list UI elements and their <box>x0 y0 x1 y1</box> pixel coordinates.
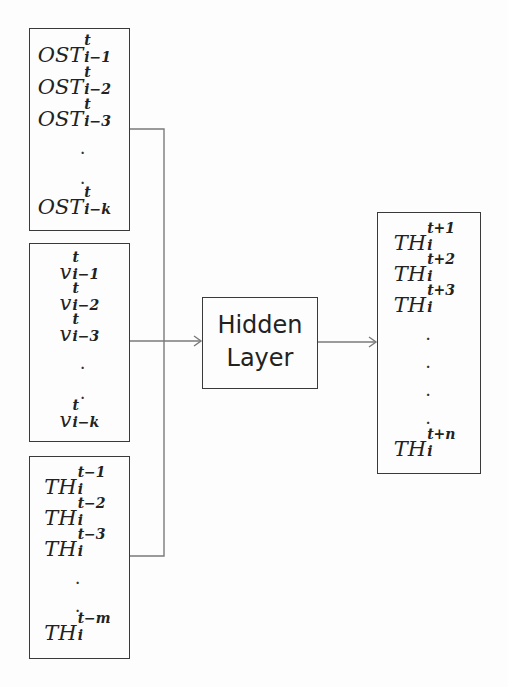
th-future-item-3: THt+3i <box>378 291 480 316</box>
output-box-th-future: THt+1i THt+2i THt+3i . . . . THt+ni <box>377 212 481 474</box>
input-box-th-past: THt−1i THt−2i THt−3i . . THt−mi <box>29 456 130 659</box>
var-sup: t+n <box>427 427 455 441</box>
ost-item-1: OSTti−1 <box>30 41 129 66</box>
var-base: v <box>60 262 72 283</box>
var-base: TH <box>44 508 76 529</box>
connector-ost <box>130 129 164 341</box>
var-sub: i−3 <box>84 114 111 128</box>
var-sup: t <box>84 33 90 47</box>
ellipsis-dot: . <box>26 569 129 587</box>
ellipsis-dot: . <box>376 353 480 371</box>
var-sub: i <box>78 482 83 496</box>
input-box-ost: OSTti−1 OSTti−2 OSTti−3 . . OSTti−k <box>29 28 130 231</box>
th-past-item-m: THt−mi <box>30 619 129 644</box>
var-sub: i−k <box>72 415 99 429</box>
var-sup: t+2 <box>427 252 455 266</box>
var-base: TH <box>394 439 426 460</box>
var-sup: t <box>84 65 90 79</box>
var-sub: i−2 <box>84 82 111 96</box>
var-base: v <box>60 293 72 314</box>
input-box-v: vti−1 vti−2 vti−3 . . vti−k <box>29 243 130 442</box>
var-sup: t <box>72 398 78 412</box>
var-base: OST <box>38 45 84 66</box>
ellipsis-dot: . <box>36 384 129 402</box>
var-sup: t+3 <box>427 283 455 297</box>
var-sup: t <box>84 185 90 199</box>
var-base: TH <box>394 233 426 254</box>
var-sub: i <box>78 513 83 527</box>
v-item-2: vti−2 <box>30 289 129 314</box>
var-sup: t <box>72 281 78 295</box>
var-sup: t <box>72 312 78 326</box>
ellipsis-dot: . <box>376 409 480 427</box>
ellipsis-dot: . <box>36 354 129 372</box>
ost-item-2: OSTti−2 <box>30 73 129 98</box>
var-sup: t <box>84 97 90 111</box>
th-past-item-3: THt−3i <box>30 535 129 560</box>
ellipsis-dot: . <box>36 139 129 157</box>
var-base: OST <box>38 197 84 218</box>
ellipsis-dot: . <box>376 325 480 343</box>
diagram-canvas: OSTti−1 OSTti−2 OSTti−3 . . OSTti−k vti−… <box>0 0 508 687</box>
v-item-k: vti−k <box>30 406 129 431</box>
v-item-1: vti−1 <box>30 258 129 283</box>
var-base: TH <box>394 295 426 316</box>
var-sub: i−3 <box>72 329 99 343</box>
var-sup: t−1 <box>78 465 106 479</box>
hidden-layer-label-line2: Layer <box>203 342 317 375</box>
ost-item-3: OSTti−3 <box>30 105 129 130</box>
var-base: TH <box>44 623 76 644</box>
var-sup: t+1 <box>427 221 455 235</box>
var-base: TH <box>394 264 426 285</box>
ellipsis-dot: . <box>36 169 129 187</box>
var-sub: i <box>78 628 83 642</box>
hidden-layer-box: Hidden Layer <box>202 297 318 389</box>
var-sub: i−1 <box>72 267 99 281</box>
ost-item-k: OSTti−k <box>30 193 129 218</box>
var-base: OST <box>38 77 84 98</box>
var-sup: t−3 <box>78 527 106 541</box>
var-base: OST <box>38 109 84 130</box>
th-future-item-n: THt+ni <box>378 435 480 460</box>
ellipsis-dot: . <box>376 381 480 399</box>
hidden-layer-label-line1: Hidden <box>203 309 317 342</box>
var-base: v <box>60 324 72 345</box>
var-sup: t−2 <box>78 496 106 510</box>
var-sub: i−2 <box>72 298 99 312</box>
var-sup: t−m <box>78 611 111 625</box>
var-sub: i−1 <box>84 50 111 64</box>
var-base: v <box>60 410 72 431</box>
var-base: TH <box>44 539 76 560</box>
var-sub: i <box>427 238 432 252</box>
var-sup: t <box>72 250 78 264</box>
var-sub: i <box>427 269 432 283</box>
var-sub: i <box>427 444 432 458</box>
var-base: TH <box>44 477 76 498</box>
var-sub: i−k <box>84 202 111 216</box>
var-sub: i <box>78 544 83 558</box>
v-item-3: vti−3 <box>30 320 129 345</box>
var-sub: i <box>427 300 432 314</box>
connector-th-past <box>130 341 164 556</box>
